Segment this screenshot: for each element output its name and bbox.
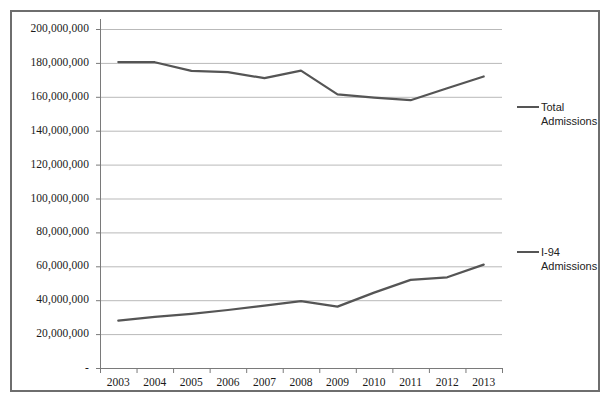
series-line-i94-admissions [118,265,483,321]
legend-item-i94-admissions: I-94 Admissions [517,245,597,273]
y-axis-label: 40,000,000 [36,293,89,305]
legend-item-total-admissions: Total Admissions [517,100,597,128]
legend-line-swatch-i94 [517,251,539,253]
y-axis-label: 180,000,000 [30,56,89,68]
series-line-total-admissions [118,62,483,100]
y-axis-label: 20,000,000 [36,327,89,339]
y-axis-label: 140,000,000 [30,124,89,136]
line-chart-plot [12,12,602,394]
chart-figure: -20,000,00040,000,00060,000,00080,000,00… [10,10,600,392]
y-axis-label: 200,000,000 [30,22,89,34]
y-axis-label: 120,000,000 [30,158,89,170]
legend-label-i94-line1: I-94 [541,246,560,258]
legend-label-i94: I-94 Admissions [541,245,597,273]
y-axis-label: 80,000,000 [36,225,89,237]
legend-label-total: Total Admissions [541,100,597,128]
y-axis-label: 160,000,000 [30,90,89,102]
legend-label-total-line1: Total [541,101,564,113]
legend-line-swatch-total [517,106,539,108]
y-axis-label: - [85,361,89,373]
y-axis-label: 100,000,000 [30,192,89,204]
legend-label-total-line2: Admissions [541,115,597,127]
y-axis-label: 60,000,000 [36,259,89,271]
x-axis-label: 2013 [460,376,508,388]
legend-label-i94-line2: Admissions [541,260,597,272]
